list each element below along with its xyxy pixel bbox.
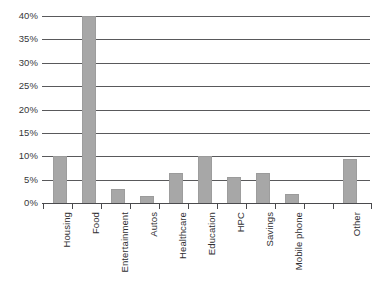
x-axis-label-mobile-phone: Mobile phone: [294, 212, 304, 270]
x-axis-label-education: Education: [207, 212, 217, 255]
x-axis-label-hpc: HPC: [236, 212, 246, 232]
x-axis-label-autos: Autos: [149, 212, 159, 237]
x-axis-label-housing: Housing: [62, 212, 72, 248]
x-axis-label-entertainment: Entertainment: [120, 212, 130, 272]
x-axis-labels: Housing Food Entertainment Autos Healthc…: [0, 0, 381, 293]
x-axis-label-healthcare: Healthcare: [178, 212, 188, 259]
x-axis-label-savings: Savings: [265, 212, 275, 247]
x-axis-label-other: Other: [352, 212, 362, 236]
x-axis-label-food: Food: [91, 212, 101, 234]
bar-chart: 40% 35% 30% 25% 20% 15% 10% 5% 0%: [0, 0, 381, 293]
